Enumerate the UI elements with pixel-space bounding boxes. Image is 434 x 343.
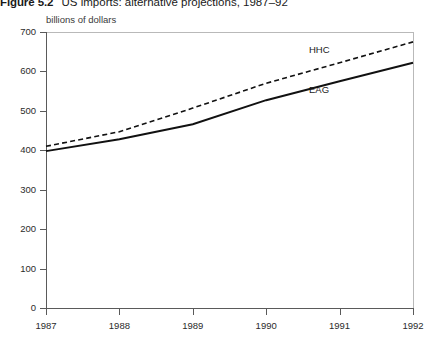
- chart-series-layer: [0, 0, 434, 343]
- series-line-hhc: [46, 42, 413, 146]
- series-label-eag: EAG: [309, 84, 329, 95]
- series-label-hhc: HHC: [309, 44, 330, 55]
- series-line-eag: [46, 63, 413, 151]
